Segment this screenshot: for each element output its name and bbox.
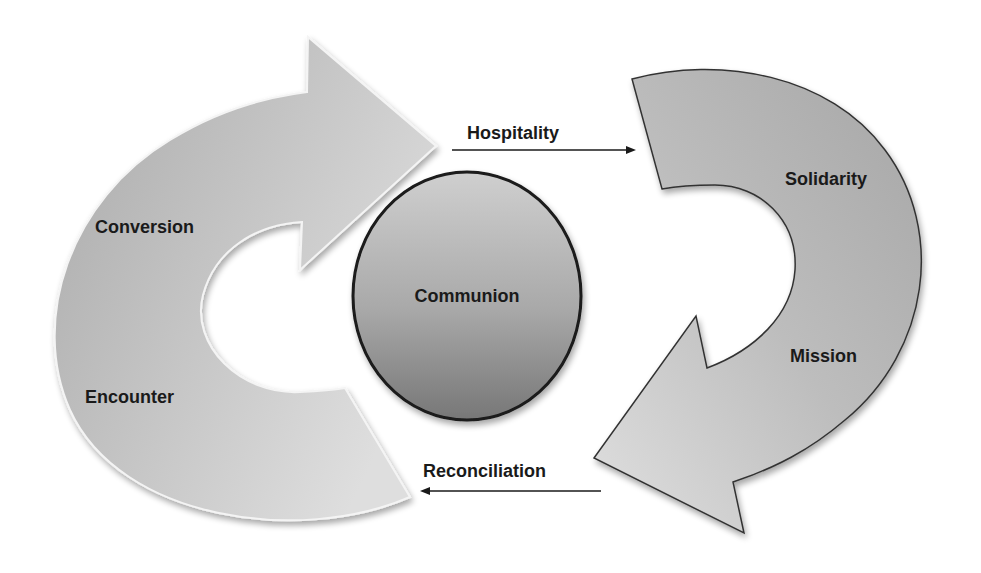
cycle-diagram: Communion Conversion Encounter Solidarit… <box>0 0 981 573</box>
mission-label: Mission <box>790 346 857 366</box>
conversion-label: Conversion <box>95 217 194 237</box>
reconciliation-connector: Reconciliation <box>420 461 601 495</box>
communion-node: Communion <box>353 172 581 420</box>
reconciliation-label: Reconciliation <box>423 461 546 481</box>
hospitality-connector: Hospitality <box>452 123 636 154</box>
solidarity-label: Solidarity <box>785 169 867 189</box>
arrowhead-left-icon <box>420 487 430 495</box>
communion-label: Communion <box>415 286 520 306</box>
arrowhead-right-icon <box>626 146 636 154</box>
hospitality-label: Hospitality <box>467 123 559 143</box>
encounter-label: Encounter <box>85 387 174 407</box>
right-cycle-arrow <box>594 69 921 533</box>
